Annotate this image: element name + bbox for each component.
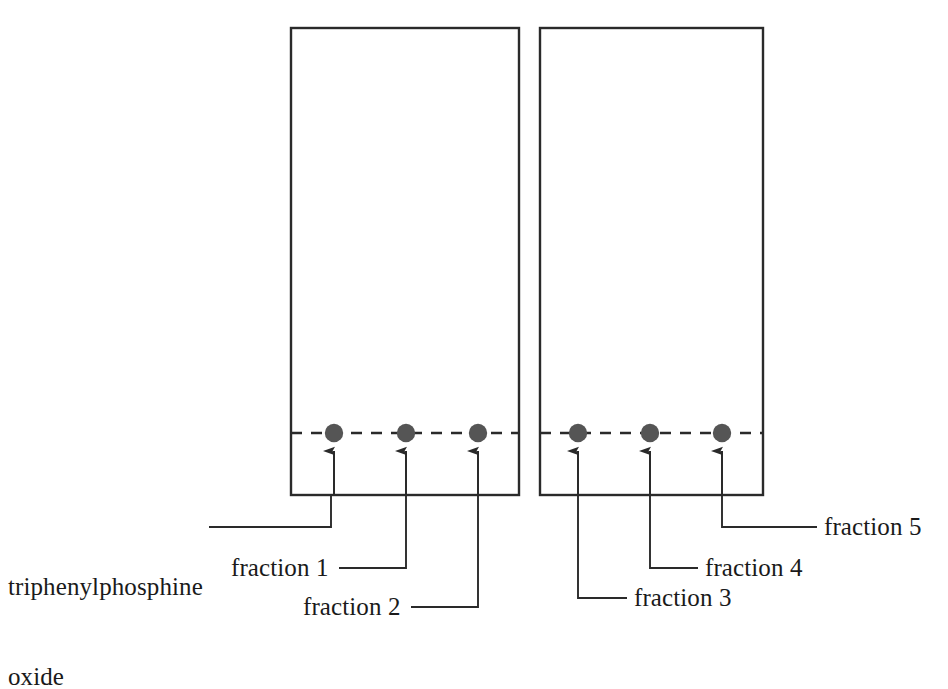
label-triphenylphosphine-oxide: triphenylphosphine oxide — [8, 512, 203, 689]
label-fraction-1: fraction 1 — [231, 553, 328, 583]
leader-fraction-2 — [411, 496, 478, 607]
spot-fraction-4 — [641, 424, 659, 442]
leader-fraction-5 — [722, 496, 817, 527]
leader-fraction-4 — [650, 496, 698, 568]
label-triphenylphosphine-oxide-line2: oxide — [8, 662, 203, 689]
spot-triphenylphosphine-oxide — [325, 424, 343, 442]
spot-fraction-1 — [397, 424, 415, 442]
label-fraction-4: fraction 4 — [705, 553, 802, 583]
spot-fraction-5 — [713, 424, 731, 442]
spot-fraction-3 — [569, 424, 587, 442]
label-fraction-3: fraction 3 — [634, 583, 731, 613]
leader-fraction-1 — [339, 496, 406, 568]
spot-fraction-2 — [469, 424, 487, 442]
leader-triphenylphosphine-oxide — [209, 496, 331, 527]
label-fraction-5: fraction 5 — [824, 512, 921, 542]
leader-fraction-3 — [578, 496, 627, 598]
label-triphenylphosphine-oxide-line1: triphenylphosphine — [8, 572, 203, 602]
label-fraction-2: fraction 2 — [303, 592, 400, 622]
